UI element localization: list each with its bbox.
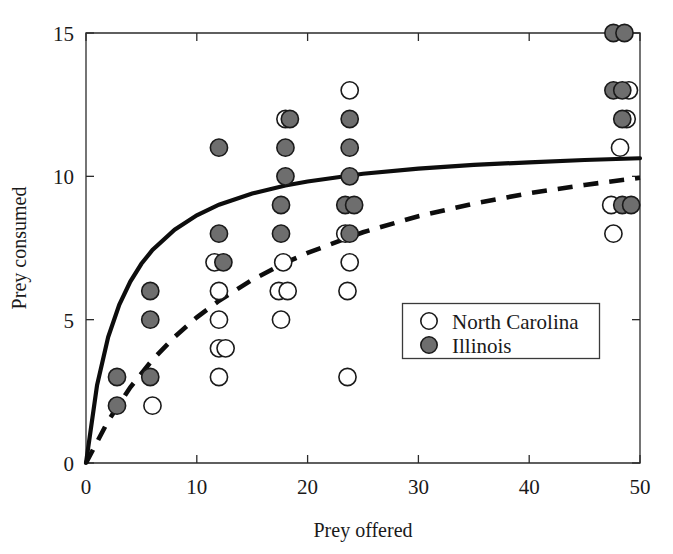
data-point-illinois [346, 196, 363, 213]
axis-frame [86, 33, 640, 463]
legend-label-illinois: Illinois [452, 334, 512, 358]
x-tick-label: 50 [630, 475, 651, 499]
y-tick-label: 5 [64, 309, 75, 333]
x-tick-label: 30 [408, 475, 429, 499]
data-point-north-carolina [341, 82, 358, 99]
data-point-illinois [281, 110, 298, 127]
data-point-north-carolina [339, 368, 356, 385]
data-point-north-carolina [279, 282, 296, 299]
x-tick-label: 20 [297, 475, 318, 499]
data-point-illinois [341, 139, 358, 156]
x-tick-label: 10 [186, 475, 207, 499]
data-point-north-carolina [605, 225, 622, 242]
data-point-north-carolina [275, 254, 292, 271]
legend[interactable]: North Carolina Illinois [403, 304, 600, 359]
data-point-north-carolina [144, 397, 161, 414]
data-point-illinois [272, 225, 289, 242]
axis-ticks [86, 33, 640, 463]
data-point-north-carolina [611, 139, 628, 156]
data-point-north-carolina [210, 311, 227, 328]
data-point-illinois [614, 82, 631, 99]
data-point-illinois [277, 139, 294, 156]
data-point-illinois [215, 254, 232, 271]
data-point-illinois [108, 397, 125, 414]
data-point-illinois [341, 168, 358, 185]
legend-marker-north-carolina [421, 313, 437, 329]
legend-marker-illinois [421, 337, 437, 353]
data-point-illinois [142, 311, 159, 328]
x-axis-label: Prey offered [313, 519, 412, 542]
y-tick-label: 10 [53, 165, 74, 189]
y-tick-label: 15 [53, 22, 74, 46]
data-point-north-carolina [210, 282, 227, 299]
data-point-illinois [142, 368, 159, 385]
data-point-illinois [341, 225, 358, 242]
data-point-illinois [614, 110, 631, 127]
data-point-north-carolina [217, 340, 234, 357]
y-axis-label: Prey consumed [8, 187, 31, 310]
figure-container: 01020304050051015 Prey offered Prey cons… [0, 0, 673, 554]
data-point-illinois [210, 225, 227, 242]
data-point-north-carolina [341, 254, 358, 271]
data-point-north-carolina [272, 311, 289, 328]
data-point-illinois [108, 368, 125, 385]
data-point-illinois [616, 24, 633, 41]
data-point-illinois [210, 139, 227, 156]
x-tick-label: 40 [519, 475, 540, 499]
x-tick-label: 0 [81, 475, 92, 499]
data-point-north-carolina [339, 282, 356, 299]
data-point-illinois [341, 110, 358, 127]
y-tick-label: 0 [64, 452, 75, 476]
data-point-illinois [277, 168, 294, 185]
axes [86, 33, 640, 463]
scatter-plot: 01020304050051015 Prey offered Prey cons… [0, 0, 673, 554]
data-point-illinois [142, 282, 159, 299]
data-point-north-carolina [210, 368, 227, 385]
data-point-illinois [623, 196, 640, 213]
data-point-illinois [272, 196, 289, 213]
legend-label-north-carolina: North Carolina [452, 310, 579, 334]
